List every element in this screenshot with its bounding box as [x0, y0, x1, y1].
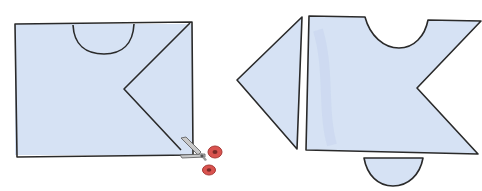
scissors-icon	[180, 137, 222, 175]
paper-cutting-diagram: Paper cutting illustration: a folded rec…	[0, 0, 482, 191]
triangle-piece	[237, 17, 302, 149]
marked-rectangle	[15, 22, 193, 157]
half-disc-piece	[364, 158, 423, 186]
notched-main-piece	[306, 16, 481, 154]
